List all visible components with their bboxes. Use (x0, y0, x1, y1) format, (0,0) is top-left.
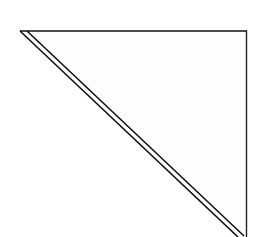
triangle-fill (20, 31, 246, 234)
triangle-diagram (0, 0, 270, 237)
